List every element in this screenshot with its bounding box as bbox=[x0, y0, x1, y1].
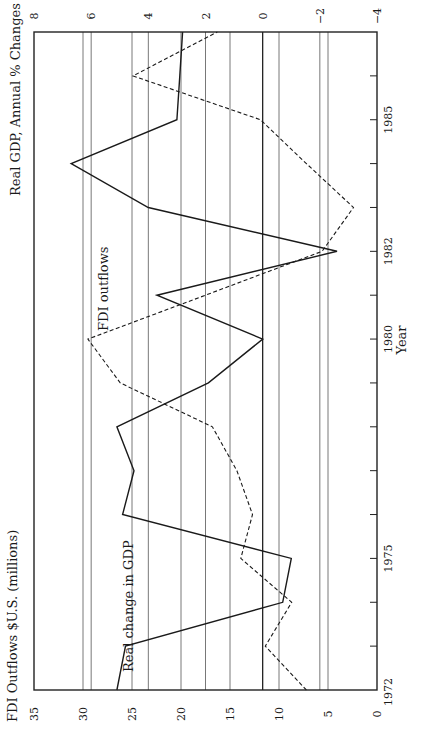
fdi-tick-label: 25 bbox=[126, 707, 139, 721]
fdi-tick-label: 10 bbox=[273, 707, 286, 721]
year-tick-label: 1982 bbox=[382, 237, 395, 265]
fdi-tick-label: 15 bbox=[224, 707, 237, 721]
year-axis-ticks: 19721975198019821985 bbox=[370, 76, 395, 706]
fdi-tick-label: 30 bbox=[77, 707, 90, 721]
gridlines bbox=[83, 32, 328, 690]
gdp-tick-label: −2 bbox=[314, 8, 327, 24]
year-tick-label: 1975 bbox=[382, 544, 395, 572]
fdi-series-label: FDI outflows bbox=[96, 247, 111, 331]
fdi-tick-label: 5 bbox=[322, 711, 335, 718]
gdp-tick-label: 0 bbox=[257, 13, 270, 20]
gdp-tick-label: 4 bbox=[142, 13, 155, 20]
gdp-axis-tick-labels: −4−202468 bbox=[28, 8, 384, 24]
gdp-tick-label: 8 bbox=[28, 13, 41, 20]
gdp-series-label: Real change in GDP bbox=[121, 540, 136, 672]
gdp-axis-title: Real GDP, Annual % Changes bbox=[8, 3, 23, 196]
gdp-tick-label: −4 bbox=[371, 8, 384, 24]
fdi-axis-tick-labels: 05101520253035 bbox=[28, 707, 384, 721]
fdi-tick-label: 35 bbox=[28, 707, 41, 721]
fdi-tick-label: 0 bbox=[371, 711, 384, 718]
series-lines bbox=[71, 32, 353, 690]
year-tick-label: 1985 bbox=[382, 106, 395, 134]
fdi-tick-label: 20 bbox=[175, 707, 188, 721]
gdp-change-line bbox=[71, 32, 337, 690]
gdp-tick-label: 2 bbox=[200, 13, 213, 20]
year-axis-title: Year bbox=[394, 325, 409, 356]
gdp-tick-label: 6 bbox=[85, 13, 98, 20]
rotated-line-chart: 19721975198019821985 05101520253035 −4−2… bbox=[0, 0, 424, 732]
year-tick-label: 1972 bbox=[382, 678, 395, 706]
fdi-axis-title: FDI Outflows $U.S. (millions) bbox=[5, 530, 20, 722]
